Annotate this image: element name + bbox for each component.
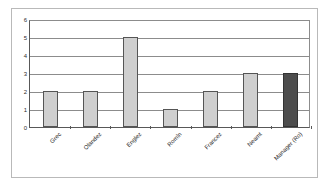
x-axis-category-label: Grec: [49, 131, 63, 145]
x-axis-category-label: Olandez: [83, 131, 104, 152]
x-axis-category-label: Francez: [203, 131, 223, 151]
y-axis-tick-label: 2: [13, 89, 27, 95]
y-axis-tick-label: 4: [13, 53, 27, 59]
bars-layer: [30, 21, 309, 127]
bar: [43, 91, 58, 127]
y-axis-tick-label: 0: [13, 125, 27, 131]
x-axis-category-label: Englez: [126, 131, 144, 149]
bar-chart-figure: 0123456 GrecOlandezEnglezRomînFrancezNea…: [0, 0, 332, 195]
y-axis-tick-label: 6: [13, 17, 27, 23]
plot-area: [29, 20, 310, 128]
y-axis-tick-labels: 0123456: [11, 20, 27, 128]
y-axis-tick-label: 3: [13, 71, 27, 77]
bar: [163, 109, 178, 127]
bar: [243, 73, 258, 127]
x-axis-category-labels: GrecOlandezEnglezRomînFrancezNeamtManage…: [29, 129, 310, 175]
bar: [283, 73, 298, 127]
x-axis-category-label: Neamt: [246, 131, 263, 148]
y-axis-tick-label: 1: [13, 107, 27, 113]
y-axis-tick-label: 5: [13, 35, 27, 41]
bar: [123, 37, 138, 127]
bar: [83, 91, 98, 127]
x-axis-category-label: Romîn: [166, 131, 183, 148]
x-axis-tick: [311, 126, 312, 129]
bar: [203, 91, 218, 127]
x-axis-category-label: Manager (Ro): [273, 131, 304, 162]
